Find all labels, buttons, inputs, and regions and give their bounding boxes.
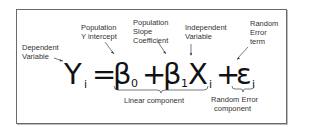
symbol-X: X	[188, 57, 208, 91]
label-population-slope-coefficient: Population Slope Coefficient	[133, 18, 168, 45]
label-line: Slope	[133, 27, 168, 36]
label-random-error-component: Random Error component	[211, 95, 258, 113]
label-line: Random	[250, 19, 278, 28]
label-line: Dependent	[22, 43, 59, 52]
label-line: Independent	[185, 23, 227, 32]
label-line: Coefficient	[133, 36, 168, 45]
subscript-X-i: i	[209, 79, 212, 91]
label-line: Population	[81, 23, 117, 32]
symbol-Y: Y	[64, 57, 82, 91]
label-line: Variable	[22, 52, 59, 61]
label-random-error-term: Random Error term	[250, 19, 278, 46]
label-line: Variable	[185, 32, 227, 41]
label-independent-variable: Independent Variable	[185, 23, 227, 41]
subscript-beta-1: 1	[181, 78, 188, 90]
label-line: Error	[250, 28, 278, 37]
symbol-beta0: β	[113, 57, 132, 91]
symbol-beta1: β	[163, 57, 182, 91]
symbol-epsilon: ε	[236, 57, 252, 91]
label-dependent-variable: Dependent Variable	[22, 43, 59, 61]
subscript-epsilon-i: i	[252, 79, 255, 91]
subscript-beta-0: 0	[131, 78, 138, 90]
label-line: Population	[133, 18, 168, 27]
label-line: Y intercept	[81, 32, 117, 41]
label-line: Random Error	[211, 95, 258, 104]
label-population-y-intercept: Population Y intercept	[81, 23, 117, 41]
label-linear-component: Linear component	[124, 96, 184, 105]
label-line: component	[211, 104, 258, 113]
label-line: term	[250, 37, 278, 46]
subscript-Y-i: i	[84, 79, 87, 91]
